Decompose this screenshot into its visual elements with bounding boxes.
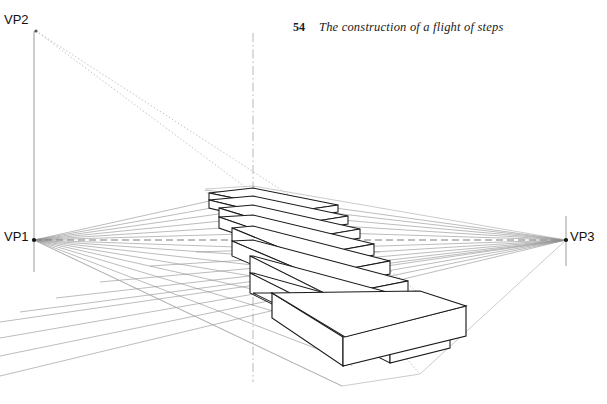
perspective-construction-diagram — [0, 0, 607, 404]
page-title: The construction of a flight of steps — [319, 20, 503, 35]
vp2-point-marker — [34, 29, 37, 32]
step-1 — [272, 291, 466, 366]
staircase-steps — [209, 188, 466, 366]
page-number: 54 — [293, 20, 305, 35]
page-header: 54 The construction of a flight of steps — [293, 20, 503, 35]
vanishing-point-label-vp1: VP1 — [4, 229, 29, 244]
vp1-point-marker — [32, 238, 36, 242]
vp2-ray-upper — [36, 31, 300, 202]
vanishing-point-label-vp3: VP3 — [570, 229, 595, 244]
base-outline-bottom — [342, 374, 420, 386]
vp2-ray-lower — [36, 31, 272, 207]
vanishing-point-label-vp2: VP2 — [4, 12, 29, 27]
figure-root: 54 The construction of a flight of steps… — [0, 0, 607, 404]
vp3-point-marker — [564, 238, 568, 242]
vp2-ray-bundle — [36, 31, 300, 207]
